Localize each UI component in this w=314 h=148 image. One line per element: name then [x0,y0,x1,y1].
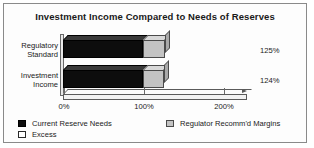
bar-side-face [164,60,169,83]
x-axis-tick [224,88,225,94]
bar-segment-regulator-margins [143,40,165,58]
category-label-line: Standard [6,51,58,60]
legend-swatch-white-icon [18,131,26,138]
x-tick-label-100: 100% [124,102,164,111]
value-label-investment-income: 124% [260,76,279,85]
legend-swatch-gray-icon [166,120,174,127]
legend-swatch-black-icon [18,120,26,127]
x-axis [63,94,247,100]
x-axis-tick [144,88,145,94]
plot-area [63,32,243,94]
bar-side-face [165,30,170,53]
value-label-regulatory-standard: 125% [260,46,279,55]
bar-segment-current-reserve-needs [63,40,143,58]
legend-label: Current Reserve Needs [32,119,112,128]
chart-frame: Investment Income Compared to Needs of R… [3,3,307,143]
x-axis-tick [64,88,65,94]
x-tick-label-0: 0% [44,102,84,111]
category-label-regulatory-standard: Regulatory Standard [6,42,58,59]
category-label-line: Income [6,81,58,90]
legend-label: Excess [32,130,56,139]
category-label-investment-income: Investment Income [6,72,58,89]
legend-label: Regulator Recomm'd Margins [180,119,280,128]
bar-segment-current-reserve-needs [63,70,143,88]
bar-segment-regulator-margins [143,70,164,88]
x-tick-label-200: 200% [204,102,244,111]
chart-title: Investment Income Compared to Needs of R… [4,11,306,22]
chart-legend: Current Reserve Needs Excess Regulator R… [14,119,298,141]
x-axis-arrow-icon [242,89,247,93]
